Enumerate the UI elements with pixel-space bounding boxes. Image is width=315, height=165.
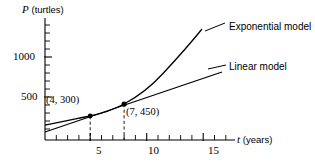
x-tick-label-15: 15	[208, 145, 219, 156]
data-point-label-1: (4, 300)	[46, 95, 79, 106]
x-axis-title: t (years)	[237, 134, 272, 145]
linear-model-label: Linear model	[229, 62, 287, 72]
exponential-label-leader	[205, 23, 225, 31]
x-tick-label-10: 10	[148, 145, 159, 156]
data-point-marker-1	[88, 114, 93, 119]
x-axis-unit: (years)	[243, 134, 273, 145]
y-tick-label-1000: 1000	[13, 51, 35, 62]
y-axis-minor-ticks	[45, 25, 50, 129]
x-axis-symbol: t	[237, 133, 240, 145]
y-axis-symbol: P	[22, 3, 29, 15]
marker-droplines	[90, 104, 124, 140]
y-tick-label-500: 500	[21, 91, 38, 102]
linear-label-leader	[208, 65, 226, 69]
exponential-model-curve	[45, 29, 202, 125]
exponential-model-label: Exponential model	[229, 22, 311, 32]
x-tick-label-5: 5	[96, 145, 102, 156]
data-point-label-2: (7, 450)	[126, 107, 159, 118]
x-axis-minor-ticks	[56, 135, 226, 140]
y-axis-title: P (turtles)	[22, 4, 64, 15]
turtle-population-chart: P (turtles) t (years) 1000 500 5 10 15 (…	[0, 0, 315, 165]
y-axis-unit: (turtles)	[32, 4, 64, 15]
